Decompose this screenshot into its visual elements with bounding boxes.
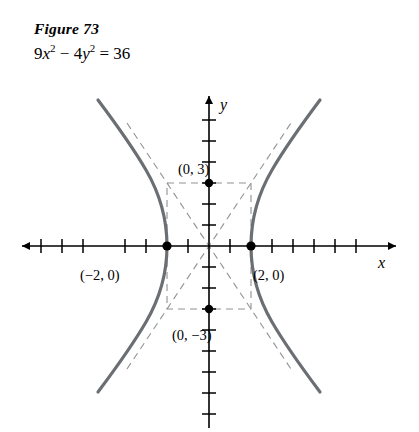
point-co-vertex-bottom <box>205 305 213 313</box>
graph-svg: x y (−2, 0) (2, 0) (0, 3) (0, −3) <box>0 78 419 432</box>
hyperbola-plot: x y (−2, 0) (2, 0) (0, 3) (0, −3) <box>0 78 419 432</box>
figure-73-container: Figure 73 9x2 − 4y2 = 36 <box>0 0 419 432</box>
y-axis-label: y <box>218 96 228 114</box>
x-axis-arrow-left <box>22 242 30 250</box>
point-vertex-right <box>246 241 255 250</box>
equation-b-coef: 4 <box>74 44 83 63</box>
figure-equation: 9x2 − 4y2 = 36 <box>34 44 364 64</box>
curve-right-upper <box>251 100 320 246</box>
figure-label: Figure 73 <box>34 20 364 38</box>
equation-rhs: 36 <box>113 44 130 63</box>
equation-b-var: y <box>82 44 90 63</box>
point-co-vertex-top <box>205 179 213 187</box>
equation-minus: − <box>56 44 74 63</box>
label-co-vertex-top: (0, 3) <box>178 161 210 178</box>
equation-a-coef: 9 <box>34 44 43 63</box>
label-co-vertex-bottom: (0, −3) <box>172 327 212 344</box>
label-vertex-right: (2, 0) <box>253 267 285 284</box>
y-axis-arrow-up <box>205 96 213 104</box>
equation-equals: = <box>95 44 113 63</box>
x-axis-arrow-right <box>388 242 396 250</box>
figure-caption: Figure 73 9x2 − 4y2 = 36 <box>34 20 364 64</box>
curve-left-upper <box>98 100 167 246</box>
x-axis-label: x <box>377 254 385 271</box>
label-vertex-left: (−2, 0) <box>80 267 120 284</box>
point-vertex-left <box>162 241 171 250</box>
equation-a-var: x <box>43 44 51 63</box>
